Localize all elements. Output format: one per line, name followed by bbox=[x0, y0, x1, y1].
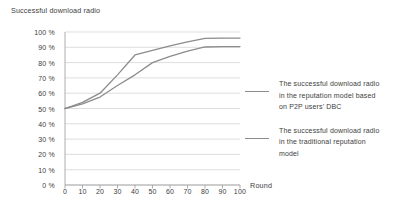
y-axis-tick-label: 100 % bbox=[34, 29, 55, 36]
plot-svg bbox=[65, 32, 240, 185]
y-axis-tick-label: 80 % bbox=[38, 59, 55, 66]
legend-line-swatch-traditional bbox=[245, 138, 269, 139]
y-axis-tick-label: 60 % bbox=[38, 90, 55, 97]
gridlines bbox=[65, 32, 240, 185]
x-axis-tick-label: 90 bbox=[218, 188, 226, 195]
legend-item-traditional: The successful download radio in the tra… bbox=[245, 125, 397, 160]
y-axis-tick-label: 0 % bbox=[42, 182, 55, 189]
series-line-traditional bbox=[65, 47, 240, 109]
x-axis-tick-label: 70 bbox=[183, 188, 191, 195]
x-axis-tick-labels: 0102030405060708090100 bbox=[65, 188, 240, 202]
x-axis-tick-label: 30 bbox=[113, 188, 121, 195]
x-axis-tick-label: 20 bbox=[96, 188, 104, 195]
chart-title: Successful download radio bbox=[11, 6, 100, 15]
legend-label-dbc-line2: in the reputation model based bbox=[279, 90, 397, 102]
legend-label-traditional: The successful download radio in the tra… bbox=[279, 125, 397, 160]
x-axis-title: Round bbox=[250, 181, 272, 190]
x-axis-tick-label: 80 bbox=[201, 188, 209, 195]
y-axis-tick-label: 40 % bbox=[38, 120, 55, 127]
legend-label-dbc-line3: on P2P users' DBC bbox=[279, 101, 397, 113]
x-axis-tick-label: 40 bbox=[131, 188, 139, 195]
series-line-dbc bbox=[65, 38, 240, 108]
x-axis-tick-label: 60 bbox=[166, 188, 174, 195]
plot-area bbox=[65, 32, 240, 185]
x-axis-tick-label: 0 bbox=[63, 188, 67, 195]
legend-label-traditional-line3: model bbox=[279, 148, 397, 160]
legend-label-dbc-line1: The successful download radio bbox=[279, 78, 397, 90]
y-axis-tick-label: 70 % bbox=[38, 74, 55, 81]
y-axis-tick-label: 50 % bbox=[38, 105, 55, 112]
y-axis-tick-label: 30 % bbox=[38, 136, 55, 143]
legend-label-dbc: The successful download radio in the rep… bbox=[279, 78, 397, 113]
series-lines bbox=[65, 38, 240, 108]
chart-container: Successful download radio 100 %90 %80 %7… bbox=[0, 0, 400, 213]
legend-item-dbc: The successful download radio in the rep… bbox=[245, 78, 397, 113]
legend-label-traditional-line1: The successful download radio bbox=[279, 125, 397, 137]
y-axis-tick-label: 20 % bbox=[38, 151, 55, 158]
y-axis-tick-label: 10 % bbox=[38, 166, 55, 173]
legend-line-swatch-dbc bbox=[245, 91, 269, 92]
y-axis-tick-labels: 100 %90 %80 %70 %60 %50 %40 %30 %20 %10 … bbox=[0, 32, 60, 185]
y-axis-tick-label: 90 % bbox=[38, 44, 55, 51]
chart-legend: The successful download radio in the rep… bbox=[245, 78, 397, 171]
x-axis-tick-label: 100 bbox=[234, 188, 246, 195]
x-axis-tick-label: 50 bbox=[148, 188, 156, 195]
x-axis-tick-label: 10 bbox=[78, 188, 86, 195]
legend-label-traditional-line2: in the traditional reputation bbox=[279, 136, 397, 148]
